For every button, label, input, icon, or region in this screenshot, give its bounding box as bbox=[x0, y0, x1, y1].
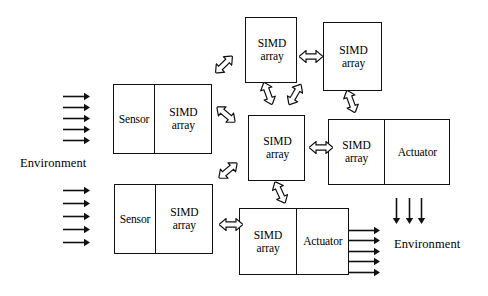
simd-array-center-cell-1: SIMDarray bbox=[249, 116, 306, 180]
simd-array-center: SIMDarray bbox=[248, 115, 305, 181]
cell-label-line1: SIMD bbox=[169, 106, 197, 119]
simd-array-top-right: SIMDarray bbox=[323, 22, 382, 91]
cell-label-line1: SIMD bbox=[254, 229, 282, 242]
cell-label-line1: SIMD bbox=[342, 139, 370, 152]
environment-input-arrow-1-2 bbox=[63, 103, 92, 112]
environment-output-arrow-2 bbox=[348, 236, 382, 245]
sensor-simd-block-top-cell-1: Sensor bbox=[114, 85, 154, 153]
connector-sensor-top-to-simd-center bbox=[213, 102, 240, 127]
connector-simd-top-left-to-simd-center bbox=[258, 80, 278, 107]
cell-label-line1: SIMD bbox=[263, 135, 291, 148]
environment-output-arrow-5 bbox=[348, 268, 382, 277]
simd-actuator-block-right-cell-2: Actuator bbox=[384, 120, 450, 184]
environment-input-arrow-1-5 bbox=[63, 136, 92, 145]
simd-array-top-left-cell-1: SIMDarray bbox=[246, 18, 298, 82]
cell-label-line2: array bbox=[342, 57, 365, 70]
environment-input-arrow-1-4 bbox=[63, 125, 92, 134]
connector-simd-top-right-to-simd-actuator-right bbox=[341, 88, 361, 115]
environment-output-arrow-down-3 bbox=[417, 198, 426, 226]
cell-label-line2: array bbox=[172, 119, 195, 132]
simd-actuator-block-bottom: SIMDarrayActuator bbox=[239, 208, 349, 275]
diagram-canvas: SensorSIMDarraySensorSIMDarraySIMDarrayS… bbox=[0, 0, 488, 296]
cell-label-line1: SIMD bbox=[258, 37, 286, 50]
environment-input-arrow-1-3 bbox=[63, 114, 92, 123]
sensor-simd-block-top-cell-2: SIMDarray bbox=[154, 85, 212, 153]
cell-label-line1: SIMD bbox=[339, 44, 367, 57]
environment-input-arrow-2-3 bbox=[63, 212, 92, 221]
simd-actuator-block-right-cell-1: SIMDarray bbox=[329, 120, 384, 184]
cell-label-line2: array bbox=[256, 242, 279, 255]
sensor-simd-block-bottom-cell-2: SIMDarray bbox=[155, 185, 213, 253]
environment-label-right: Environment bbox=[394, 237, 460, 252]
sensor-simd-block-bottom-cell-1: Sensor bbox=[115, 185, 155, 253]
connector-simd-top-left-to-simd-top-right bbox=[299, 50, 323, 63]
cell-label-line2: array bbox=[345, 152, 368, 165]
simd-array-top-right-cell-1: SIMDarray bbox=[324, 23, 383, 90]
connector-sensor-bottom-to-simd-center bbox=[215, 158, 242, 183]
environment-input-arrow-1-1 bbox=[63, 92, 92, 101]
environment-output-arrow-3 bbox=[348, 247, 382, 256]
environment-input-arrow-2-4 bbox=[63, 225, 92, 234]
sensor-simd-block-top: SensorSIMDarray bbox=[113, 84, 212, 154]
environment-output-arrow-down-2 bbox=[405, 198, 414, 226]
simd-actuator-block-bottom-cell-1: SIMDarray bbox=[240, 209, 296, 274]
simd-array-top-left: SIMDarray bbox=[245, 17, 297, 83]
connector-simd-top-right-to-simd-center bbox=[283, 81, 306, 108]
environment-input-arrow-2-1 bbox=[63, 186, 92, 195]
cell-label-line2: array bbox=[260, 50, 283, 63]
connector-simd-center-to-simd-actuator-bottom bbox=[269, 179, 291, 206]
cell-label-line2: array bbox=[173, 219, 196, 232]
cell-label-line2: array bbox=[266, 148, 289, 161]
environment-output-arrow-4 bbox=[348, 257, 382, 266]
cell-label-line1: SIMD bbox=[170, 206, 198, 219]
connector-sensor-top-to-simd-top-left bbox=[211, 51, 237, 77]
cell-label-line1: Sensor bbox=[119, 113, 150, 126]
environment-output-arrow-down-1 bbox=[392, 198, 401, 226]
connector-sensor-bottom-to-simd-actuator-bottom bbox=[219, 218, 243, 231]
connector-simd-center-to-simd-actuator-right bbox=[309, 141, 333, 154]
cell-label-line1: Actuator bbox=[303, 235, 342, 248]
sensor-simd-block-bottom: SensorSIMDarray bbox=[114, 184, 213, 254]
cell-label-line1: Actuator bbox=[398, 146, 437, 159]
simd-actuator-block-bottom-cell-2: Actuator bbox=[296, 209, 349, 274]
environment-input-arrow-2-2 bbox=[63, 199, 92, 208]
environment-output-arrow-1 bbox=[348, 226, 382, 235]
environment-input-arrow-2-5 bbox=[63, 238, 92, 247]
environment-label-left: Environment bbox=[20, 156, 86, 171]
simd-actuator-block-right: SIMDarrayActuator bbox=[328, 119, 450, 185]
cell-label-line1: Sensor bbox=[120, 213, 151, 226]
